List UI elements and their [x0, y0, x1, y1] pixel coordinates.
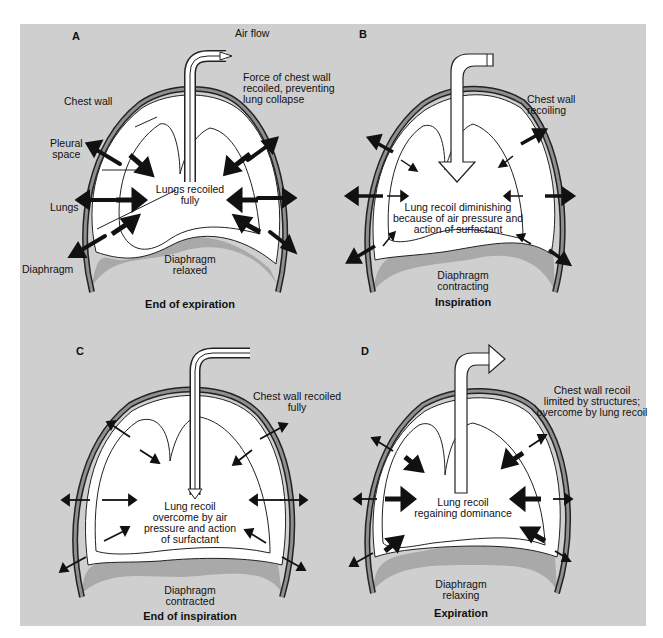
caption-phase: Inspiration	[413, 296, 513, 308]
thorax-diagram-c	[20, 325, 333, 626]
label-center-state: Lung recoil diminishing because of air p…	[383, 202, 533, 235]
label-diaphragm-state: Diaphragm relaxing	[421, 579, 501, 601]
caption-phase: End of expiration	[130, 298, 250, 310]
panel-a-end-of-expiration: A Air flow Chest wall Pleural space Lung…	[20, 24, 333, 325]
label-center-state: Lung recoil regaining dominance	[403, 497, 523, 519]
label-pleural-space: Pleural space	[50, 138, 83, 160]
panel-b-inspiration: B Chest wall recoiling Lung recoil dimin…	[333, 24, 646, 325]
label-side-note: Chest wall recoil limited by structures;…	[527, 385, 657, 418]
label-diaphragm-state: Diaphragm contracted	[150, 585, 230, 607]
panel-letter-b: B	[359, 28, 367, 40]
caption-phase: End of inspiration	[130, 610, 250, 622]
caption-phase: Expiration	[411, 607, 511, 619]
panel-letter-a: A	[72, 30, 80, 42]
label-chest-wall: Chest wall	[64, 96, 112, 107]
panel-letter-d: D	[361, 345, 369, 357]
label-side-note: Chest wall recoiling	[527, 94, 575, 116]
label-lungs: Lungs	[50, 202, 79, 213]
panel-letter-c: C	[76, 345, 84, 357]
panel-c-end-of-inspiration: C Chest wall recoiled fully Lung recoil …	[20, 325, 333, 626]
label-air-flow: Air flow	[235, 28, 269, 39]
label-force-note: Force of chest wall recoiled, preventing…	[243, 72, 335, 105]
label-diaphragm-state: Diaphragm contracting	[423, 270, 503, 292]
thorax-diagram-a	[20, 24, 333, 325]
label-diaphragm-state: Diaphragm relaxed	[150, 254, 230, 276]
label-diaphragm: Diaphragm	[22, 264, 73, 275]
label-center-state: Lung recoil overcome by air pressure and…	[130, 501, 250, 545]
label-center-state: Lungs recoiled fully	[140, 184, 240, 206]
panel-d-expiration: D Chest wall recoil limited by structure…	[333, 325, 646, 626]
